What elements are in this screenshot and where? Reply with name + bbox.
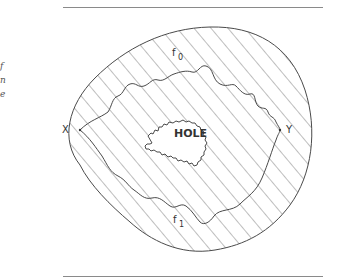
- point-x-marker: [79, 129, 81, 131]
- path-f1-subscript: 1: [179, 220, 184, 229]
- point-x-label: X: [62, 124, 69, 135]
- path-f0-subscript: 0: [178, 53, 183, 62]
- path-f0-label: f: [172, 47, 176, 58]
- hole-label: HOLE: [174, 127, 207, 140]
- path-f1-label: f: [173, 214, 177, 225]
- point-y-marker: [279, 129, 281, 131]
- point-y-label: Y: [285, 124, 293, 135]
- homotopy-diagram: HOLE X Y f 0 f 1: [0, 0, 337, 280]
